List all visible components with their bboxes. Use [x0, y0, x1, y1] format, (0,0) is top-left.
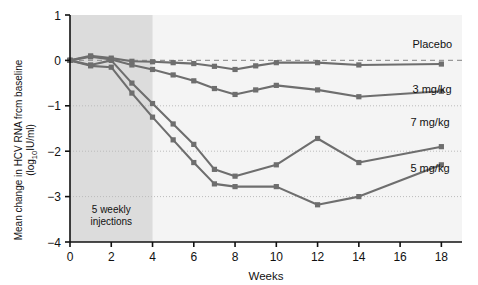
- x-tick-label: 10: [270, 250, 284, 264]
- data-point: [150, 115, 155, 120]
- series-label-5-mg-kg: 5 mg/kg: [410, 162, 449, 174]
- y-axis-title-group: Mean change in HCV RNA frcm baseline (lo…: [13, 59, 39, 240]
- x-axis-title-group: Weeks: [249, 270, 284, 282]
- y-tick-label: −3: [47, 190, 61, 204]
- data-point: [212, 181, 217, 186]
- data-point: [129, 62, 134, 67]
- data-point: [232, 174, 237, 179]
- x-tick-label: 12: [311, 250, 325, 264]
- data-point: [439, 144, 444, 149]
- data-point: [191, 160, 196, 165]
- y-axis-title-log-subscript: 10: [30, 151, 39, 159]
- x-axis-title: Weeks: [249, 270, 284, 282]
- y-tick-label: 0: [54, 54, 61, 68]
- data-point: [171, 137, 176, 142]
- injection-annotation-line2: injections: [90, 216, 132, 227]
- chart-canvas: 10−1−2−3−4 024681012141618 Placebo3 mg/k…: [0, 0, 478, 285]
- data-point: [439, 61, 444, 66]
- y-tick-label: 1: [54, 9, 61, 23]
- series-label-7-mg-kg: 7 mg/kg: [410, 116, 449, 128]
- injection-annotation-group: 5 weekly injections: [90, 204, 132, 227]
- data-point: [232, 184, 237, 189]
- data-point: [315, 60, 320, 65]
- data-point: [356, 160, 361, 165]
- data-point: [232, 92, 237, 97]
- data-point: [191, 61, 196, 66]
- data-point: [88, 54, 93, 59]
- y-tick-label: −2: [47, 145, 61, 159]
- data-point: [129, 90, 134, 95]
- data-point: [150, 101, 155, 106]
- x-tick-label: 18: [435, 250, 449, 264]
- x-tick-label: 6: [190, 250, 197, 264]
- data-point: [253, 87, 258, 92]
- y-tick-label: −1: [47, 99, 61, 113]
- data-point: [274, 83, 279, 88]
- x-axis-ticks: 024681012141618: [67, 242, 449, 264]
- y-axis-title-log-suffix: IU/ml): [25, 124, 36, 151]
- data-point: [171, 72, 176, 77]
- x-tick-label: 16: [393, 250, 407, 264]
- data-point: [212, 86, 217, 91]
- data-point: [109, 65, 114, 70]
- data-point: [274, 162, 279, 167]
- data-point: [356, 62, 361, 67]
- y-axis-title-line2: (log10IU/ml): [25, 124, 39, 176]
- data-point: [129, 81, 134, 86]
- data-point: [253, 63, 258, 68]
- data-point: [212, 64, 217, 69]
- x-tick-label: 8: [232, 250, 239, 264]
- y-tick-label: −4: [47, 236, 61, 250]
- data-point: [150, 67, 155, 72]
- data-point: [356, 194, 361, 199]
- x-tick-label: 14: [352, 250, 366, 264]
- data-point: [191, 142, 196, 147]
- x-tick-label: 2: [108, 250, 115, 264]
- injection-annotation-line1: 5 weekly: [92, 204, 131, 215]
- data-point: [171, 60, 176, 65]
- y-axis-title-log-prefix: (log: [25, 159, 36, 176]
- data-point: [356, 94, 361, 99]
- data-point: [315, 136, 320, 141]
- y-axis-ticks: 10−1−2−3−4: [47, 9, 70, 250]
- data-point: [191, 78, 196, 83]
- data-point: [315, 87, 320, 92]
- y-axis-title-line1: Mean change in HCV RNA frcm baseline: [13, 59, 24, 240]
- data-point: [109, 58, 114, 63]
- data-point: [315, 202, 320, 207]
- data-point: [274, 184, 279, 189]
- hcv-rna-line-chart: 10−1−2−3−4 024681012141618 Placebo3 mg/k…: [0, 0, 478, 285]
- data-point: [232, 67, 237, 72]
- series-label-placebo: Placebo: [412, 38, 452, 50]
- data-point: [212, 167, 217, 172]
- series-label-3-mg-kg: 3 mg/kg: [412, 83, 451, 95]
- data-point: [274, 60, 279, 65]
- data-point: [171, 121, 176, 126]
- data-point: [150, 59, 155, 64]
- x-tick-label: 4: [149, 250, 156, 264]
- x-tick-label: 0: [67, 250, 74, 264]
- data-point: [88, 63, 93, 68]
